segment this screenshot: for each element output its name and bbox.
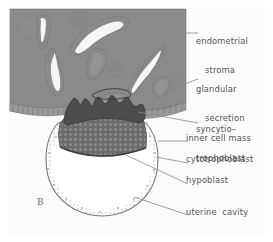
label-endometrial-stroma-line1: endometrial [196, 37, 248, 47]
implantation-diagram-figure: endometrial stroma glandular secretion s… [0, 0, 273, 242]
label-syncytiotrophoblast: syncytio– trophoblast [196, 106, 245, 183]
label-glandular-secretion-line1: glandular [196, 85, 245, 95]
label-inner-cell-mass: inner cell mass [186, 134, 251, 144]
panel-letter-b: B [37, 197, 44, 207]
label-uterine-cavity: uterine cavity [186, 208, 248, 218]
label-cytotrophoblast: cytotrophoblast [186, 155, 253, 165]
label-hypoblast: hypoblast [186, 176, 228, 186]
